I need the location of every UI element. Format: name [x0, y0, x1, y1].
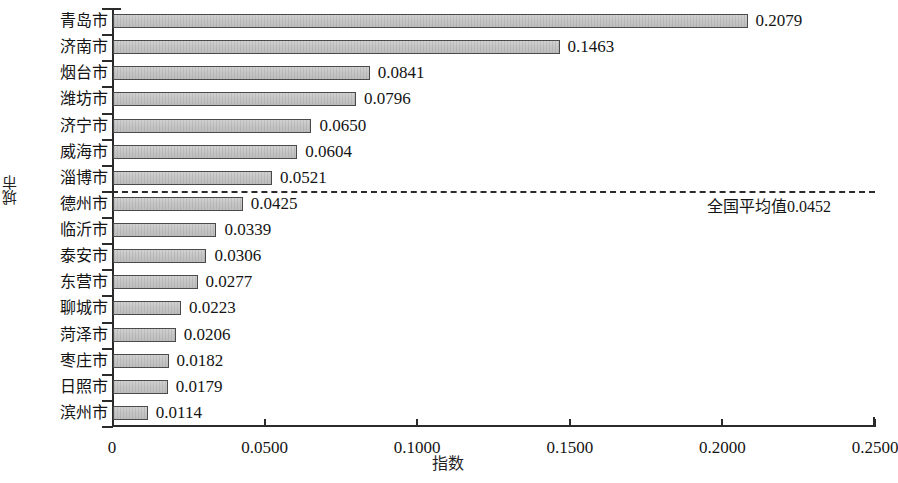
bar [113, 249, 206, 263]
bar-value-label: 0.0796 [364, 89, 411, 108]
bar-value-label: 0.0206 [184, 325, 231, 344]
bar [113, 92, 356, 106]
bar-value-label: 0.0339 [224, 220, 271, 239]
bar-value-label: 0.0650 [319, 116, 366, 135]
category-label: 济宁市 [26, 117, 108, 135]
category-label: 济南市 [26, 38, 108, 56]
bar [113, 197, 243, 211]
y-axis-title: 城市 [2, 175, 26, 205]
bar [113, 328, 176, 342]
y-axis-tick [102, 113, 113, 115]
bar-value-label: 0.0179 [176, 377, 223, 396]
category-label: 烟台市 [26, 64, 108, 82]
bar-value-label: 0.0604 [305, 142, 352, 161]
y-axis-tick [102, 269, 113, 271]
bar-value-label: 0.1463 [568, 37, 615, 56]
y-axis-top-cap [112, 8, 121, 10]
bar-value-label: 0.0114 [156, 403, 202, 422]
category-label-column: 青岛市济南市烟台市潍坊市济宁市威海市淄博市德州市临沂市泰安市东营市聊城市菏泽市枣… [26, 8, 110, 426]
x-axis-title: 指数 [0, 455, 896, 473]
category-label: 潍坊市 [26, 90, 108, 108]
average-reference-line [112, 191, 875, 193]
y-axis-tick [102, 34, 113, 36]
bar [113, 354, 169, 368]
bar [113, 301, 181, 315]
bar-value-label: 0.2079 [756, 11, 803, 30]
bar [113, 119, 311, 133]
y-axis-tick [102, 139, 113, 141]
x-axis-tick [416, 419, 418, 427]
bar [113, 14, 748, 28]
bar-value-label: 0.0182 [177, 351, 224, 370]
y-axis-tick [102, 165, 113, 167]
category-label: 枣庄市 [26, 352, 108, 370]
plot-area: 0.20790.14630.08410.07960.06500.06040.05… [112, 8, 875, 426]
category-label: 菏泽市 [26, 326, 108, 344]
bar [113, 66, 370, 80]
bar [113, 275, 198, 289]
x-axis-tick [569, 419, 571, 427]
y-axis-tick [102, 60, 113, 62]
y-axis-tick [102, 374, 113, 376]
bar-value-label: 0.0277 [206, 272, 253, 291]
y-axis-tick [102, 348, 113, 350]
y-axis-tick [102, 426, 113, 428]
bar-value-label: 0.0521 [280, 168, 327, 187]
category-label: 淄博市 [26, 169, 108, 187]
y-axis-tick [102, 243, 113, 245]
category-label: 东营市 [26, 273, 108, 291]
category-label: 聊城市 [26, 299, 108, 317]
x-axis-tick [721, 419, 723, 427]
category-label: 泰安市 [26, 247, 108, 265]
x-axis-tick [874, 419, 876, 427]
category-label: 滨州市 [26, 404, 108, 422]
category-label: 临沂市 [26, 221, 108, 239]
bar [113, 380, 168, 394]
bar [113, 171, 272, 185]
y-axis-tick [102, 8, 113, 10]
y-axis-tick [102, 295, 113, 297]
y-axis-tick [102, 86, 113, 88]
y-axis-tick [102, 322, 113, 324]
category-label: 威海市 [26, 143, 108, 161]
category-label: 德州市 [26, 195, 108, 213]
y-axis-tick [102, 400, 113, 402]
bar-value-label: 0.0425 [251, 194, 298, 213]
x-axis-line [112, 425, 875, 427]
bar-value-label: 0.0306 [214, 246, 261, 265]
bar [113, 145, 297, 159]
category-label: 日照市 [26, 378, 108, 396]
bar-value-label: 0.0223 [189, 298, 236, 317]
average-annotation-label: 全国平均值0.0452 [707, 198, 831, 216]
x-axis-tick [264, 419, 266, 427]
bar [113, 406, 148, 420]
y-axis-tick [102, 217, 113, 219]
bar-value-label: 0.0841 [378, 63, 425, 82]
bar [113, 223, 216, 237]
category-label: 青岛市 [26, 12, 108, 30]
bar [113, 40, 560, 54]
